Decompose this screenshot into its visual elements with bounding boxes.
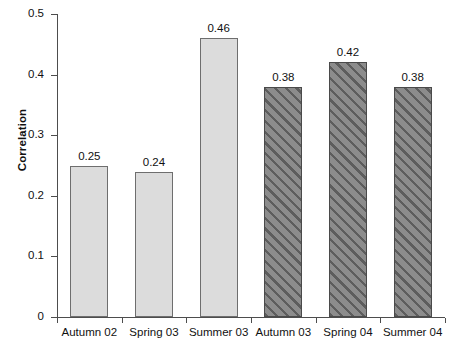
y-tick-mark bbox=[51, 14, 57, 15]
y-tick-mark bbox=[51, 256, 57, 257]
bar-chart: Correlation 00.10.20.30.40.5 Autumn 02Sp… bbox=[0, 0, 453, 351]
bar-value-label: 0.38 bbox=[251, 72, 316, 84]
x-tick-mark bbox=[186, 318, 187, 323]
x-tick-mark bbox=[57, 318, 58, 323]
y-tick-label: 0.3 bbox=[0, 129, 44, 141]
bar bbox=[200, 38, 238, 317]
x-tick-mark bbox=[122, 318, 123, 323]
x-tick-label: Autumn 03 bbox=[251, 326, 316, 339]
x-tick-mark bbox=[380, 318, 381, 323]
bar-value-label: 0.46 bbox=[186, 23, 251, 35]
y-tick-mark bbox=[51, 196, 57, 197]
y-tick-label: 0.2 bbox=[0, 190, 44, 202]
x-tick-label: Summer 04 bbox=[380, 326, 445, 339]
y-tick-label: 0.5 bbox=[0, 8, 44, 20]
x-tick-mark bbox=[316, 318, 317, 323]
x-tick-label: Spring 04 bbox=[316, 326, 381, 339]
y-tick-label: 0 bbox=[0, 311, 44, 323]
x-tick-mark bbox=[445, 318, 446, 323]
bar bbox=[264, 87, 302, 317]
bar bbox=[70, 166, 108, 318]
y-tick-mark bbox=[51, 75, 57, 76]
bar-value-label: 0.42 bbox=[316, 47, 381, 59]
bar bbox=[135, 172, 173, 317]
x-tick-label: Summer 03 bbox=[186, 326, 251, 339]
x-tick-mark bbox=[251, 318, 252, 323]
x-tick-label: Autumn 02 bbox=[57, 326, 122, 339]
bar bbox=[394, 87, 432, 317]
y-tick-mark bbox=[51, 135, 57, 136]
bar-value-label: 0.38 bbox=[380, 72, 445, 84]
bar-value-label: 0.25 bbox=[57, 151, 122, 163]
y-axis-line bbox=[57, 14, 58, 318]
x-tick-label: Spring 03 bbox=[122, 326, 187, 339]
bar-value-label: 0.24 bbox=[122, 157, 187, 169]
y-tick-label: 0.4 bbox=[0, 69, 44, 81]
bar bbox=[329, 62, 367, 317]
y-tick-label: 0.1 bbox=[0, 250, 44, 262]
